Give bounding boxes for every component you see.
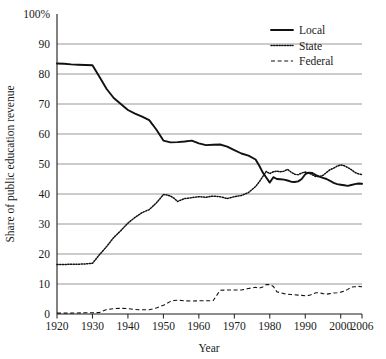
x-tick-label-1940: 1940 bbox=[116, 320, 139, 332]
y-tick-label-20: 20 bbox=[39, 248, 51, 260]
x-tick-label-1930: 1930 bbox=[81, 320, 104, 332]
legend-label-state: State bbox=[299, 40, 322, 52]
y-tick-label-70: 70 bbox=[39, 98, 51, 110]
legend-label-local: Local bbox=[299, 24, 325, 36]
x-tick-label-1970: 1970 bbox=[223, 320, 246, 332]
x-tick-label-1980: 1980 bbox=[258, 320, 281, 332]
y-tick-label-50: 50 bbox=[39, 158, 51, 170]
x-tick-label-1920: 1920 bbox=[46, 320, 69, 332]
legend-label-federal: Federal bbox=[299, 55, 333, 67]
x-tick-label-1960: 1960 bbox=[187, 320, 210, 332]
y-tick-label-60: 60 bbox=[39, 128, 51, 140]
y-tick-label-90: 90 bbox=[39, 38, 51, 50]
x-axis-title: Year bbox=[198, 342, 219, 354]
y-tick-label-10: 10 bbox=[39, 278, 51, 290]
y-tick-label-80: 80 bbox=[39, 68, 51, 80]
y-tick-label-30: 30 bbox=[39, 218, 51, 230]
x-tick-label-1950: 1950 bbox=[152, 320, 175, 332]
x-tick-label-2006: 2006 bbox=[351, 320, 374, 332]
y-tick-label-40: 40 bbox=[39, 188, 51, 200]
x-tick-label-2000: 2000 bbox=[329, 320, 352, 332]
y-tick-label-100: 100% bbox=[23, 8, 50, 20]
y-tick-label-0: 0 bbox=[44, 308, 50, 320]
chart-figure: 0102030405060708090100% 1920193019401950… bbox=[0, 0, 386, 359]
x-tick-label-1990: 1990 bbox=[294, 320, 317, 332]
revenue-share-line-chart: 0102030405060708090100% 1920193019401950… bbox=[0, 0, 386, 359]
y-axis-title: Share of public education revenue bbox=[4, 85, 17, 242]
